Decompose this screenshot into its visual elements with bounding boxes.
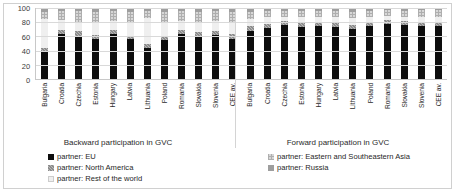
category-label-cell: Czechia [280,82,287,134]
category-label: Poland [366,83,373,103]
legend-label-russia: partner: Russia [277,163,329,172]
bar-segment-eu [161,40,168,79]
gridline [36,8,447,9]
legend-swatch-eastern-southeastern-asia-icon [268,154,274,160]
category-label-cell: Romania [383,82,390,134]
bar-segment-eu [435,26,442,79]
bar-segment-eu [75,36,82,79]
category-label-cell: Poland [366,82,373,134]
bar-segment-asia [195,12,202,22]
category-label: Estonia [297,83,304,105]
category-labels-row: BulgariaCroatiaCzechiaEstoniaHungaryLatv… [35,82,447,134]
bar-segment-eu [195,36,202,79]
category-label-cell: Slovenia [418,82,425,134]
legend-column-left: partner: EU partner: North America partn… [8,150,228,186]
chart-legend: partner: EU partner: North America partn… [8,150,448,186]
bar-segment-asia [110,11,117,21]
category-label-cell: Estonia [92,82,99,134]
bar-segment-eu [110,34,117,79]
bar-segment-eu [247,31,254,79]
category-label: Lithuania [143,83,150,109]
category-label: Estonia [92,83,99,105]
bar-segment-eu [366,26,373,79]
bar-segment-asia [144,11,151,18]
bar-lithuania [349,8,356,79]
category-label: Romania [383,83,390,109]
category-label: Latvia [332,83,339,100]
legend-swatch-rest-of-world-icon [48,176,54,182]
bar-latvia [127,8,134,79]
bar-hungary [110,8,117,79]
legend-swatch-north-america-icon [48,165,54,171]
bar-bulgaria [247,8,254,79]
category-label: Latvia [126,83,133,100]
y-axis-tick-label: 0 [26,76,30,85]
bar-latvia [332,8,339,79]
bar-segment-asia [75,11,82,22]
bar-estonia [92,8,99,79]
plot-area [35,8,447,80]
legend-label-eastern-southeastern-asia: partner: Eastern and Southeastern Asia [277,152,410,161]
category-label-cell: Estonia [297,82,304,134]
legend-item-north-america: partner: North America [48,162,228,173]
category-label: Slovakia [400,83,407,108]
gridline [36,65,447,66]
y-axis-tick-label: 60 [22,32,30,41]
legend-label-rest-of-world: partner: Rest of the world [57,174,142,183]
bar-segment-row [92,22,99,35]
bar-segment-eu [92,39,99,79]
category-label-cell: Lithuania [143,82,150,134]
bar-segment-eu [315,26,322,79]
category-label-cell: Slovenia [212,82,219,134]
bar-segment-eu [298,27,305,79]
bar-poland [366,8,373,79]
bars-container [36,8,447,79]
legend-item-eastern-southeastern-asia: partner: Eastern and Southeastern Asia [268,151,448,162]
y-axis: 020406080100 [8,8,34,80]
category-label-cell: Croatia [57,82,64,134]
category-label-cell: Lithuania [349,82,356,134]
category-label: Poland [160,83,167,103]
bar-segment-row [41,19,48,47]
bar-segment-asia [58,11,65,20]
bar-czechia [75,8,82,79]
category-label: Romania [177,83,184,109]
legend-label-north-america: partner: North America [57,163,133,172]
category-label: Hungary [315,83,322,108]
bar-segment-eu [127,39,134,79]
category-label: Bulgaria [246,83,253,107]
y-axis-tick-label: 20 [22,61,30,70]
bar-segment-eu [144,48,151,79]
bar-slovakia [401,8,408,79]
bar-czechia [281,8,288,79]
bar-segment-eu [332,27,339,79]
category-label: CEE av. [435,83,442,106]
category-label: Slovenia [212,83,219,108]
bar-segment-asia [161,12,168,22]
bar-poland [161,8,168,79]
legend-item-eu: partner: EU [48,151,228,162]
category-label-cell: Hungary [109,82,116,134]
plot-wrapper: 020406080100 [8,8,448,90]
bar-segment-eu [418,26,425,79]
bar-segment-eu [178,34,185,79]
category-label-cell: Latvia [332,82,339,134]
bar-segment-asia [92,12,99,23]
legend-item-russia: partner: Russia [268,162,448,173]
panel-title-backward: Backward participation in GVC [8,138,228,150]
category-label: Slovenia [418,83,425,108]
bar-segment-eu [281,25,288,79]
legend-swatch-eu-icon [48,154,54,160]
bar-croatia [58,8,65,79]
category-label-cell: CEE av. [435,82,442,134]
legend-swatch-russia-icon [268,165,274,171]
bar-segment-asia [127,12,134,23]
category-label-cell: Hungary [315,82,322,134]
bar-slovenia [212,8,219,79]
panel-title-forward: Forward participation in GVC [228,138,448,150]
bar-segment-eu [401,25,408,79]
bar-segment-asia [247,12,254,19]
category-label-cell: Romania [177,82,184,134]
bar-lithuania [144,8,151,79]
category-label-cell: Slovakia [400,82,407,134]
